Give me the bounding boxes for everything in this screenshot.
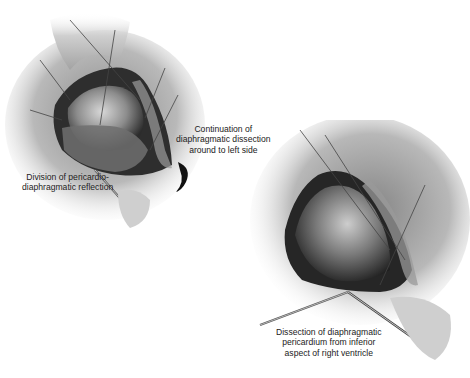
dissection-label: Dissection of diaphragmatic pericardium … bbox=[276, 327, 382, 358]
label-line: pericardium from inferior bbox=[276, 337, 382, 347]
label-line: diaphragmatic dissection bbox=[176, 134, 271, 144]
division-label: Division of pericardio- diaphragmatic re… bbox=[22, 172, 113, 193]
label-line: Division of pericardio- bbox=[22, 172, 113, 182]
label-line: Continuation of bbox=[176, 124, 271, 134]
label-line: Dissection of diaphragmatic bbox=[276, 327, 382, 337]
label-line: around to left side bbox=[176, 145, 271, 155]
continuation-label: Continuation of diaphragmatic dissection… bbox=[176, 124, 271, 155]
label-line: aspect of right ventricle bbox=[276, 348, 382, 358]
upper-left-illustration bbox=[0, 0, 240, 230]
label-line: diaphragmatic reflection bbox=[22, 182, 113, 192]
